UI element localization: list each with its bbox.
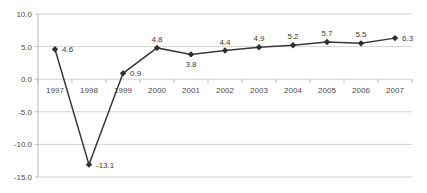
data-point-label: 4.9 (253, 34, 265, 43)
data-point-labels: 4.6-13.10.94.83.84.44.95.25.75.56.3 (62, 29, 414, 170)
x-axis-tick-label: 1998 (80, 86, 98, 95)
data-point-label: 3.8 (185, 60, 197, 69)
data-point-markers (52, 35, 398, 168)
x-axis-tick-label: 2002 (216, 86, 234, 95)
data-point-label: 4.4 (219, 38, 231, 47)
x-axis-tick-label: 1997 (46, 86, 64, 95)
data-point-marker (256, 44, 262, 50)
x-axis-tick-label: 2005 (318, 86, 336, 95)
y-axis-tick-label: -10.0 (14, 140, 33, 149)
y-axis-tick-label: -5.0 (18, 108, 32, 117)
x-axis-tick-label: 2007 (386, 86, 404, 95)
x-axis-labels: 1997199819992000200120022003200420052006… (46, 86, 404, 95)
data-point-label: 5.5 (355, 30, 367, 39)
x-axis-tick-label: 2000 (148, 86, 166, 95)
data-point-marker (188, 51, 194, 57)
data-point-marker (86, 161, 92, 167)
chart-canvas: 10.05.00.0-5.0-10.0-15.0 199719981999200… (0, 0, 427, 193)
data-point-label: 6.3 (402, 34, 414, 43)
data-point-marker (324, 39, 330, 45)
data-point-label: -13.1 (96, 161, 115, 170)
y-axis-tick-label: 0.0 (21, 75, 33, 84)
data-point-marker (392, 35, 398, 41)
data-line-series (55, 38, 395, 164)
data-point-label: 5.7 (321, 29, 333, 38)
data-point-marker (358, 40, 364, 46)
x-axis-tick-label: 2004 (284, 86, 302, 95)
data-point-marker (290, 42, 296, 48)
x-axis-tick-label: 2003 (250, 86, 268, 95)
data-point-label: 5.2 (287, 32, 299, 41)
data-point-label: 4.6 (62, 45, 74, 54)
y-axis-tick-label: 5.0 (21, 43, 33, 52)
line-chart: 10.05.00.0-5.0-10.0-15.0 199719981999200… (0, 0, 427, 193)
y-axis-tick-label: 10.0 (16, 10, 32, 19)
data-point-label: 4.8 (151, 35, 163, 44)
x-axis-tick-label: 2006 (352, 86, 370, 95)
data-point-label: 0.9 (130, 69, 142, 78)
data-point-marker (222, 47, 228, 53)
x-axis-tick-label: 2001 (182, 86, 200, 95)
y-axis-labels: 10.05.00.0-5.0-10.0-15.0 (14, 10, 33, 182)
y-axis-tick-label: -15.0 (14, 173, 33, 182)
x-axis-ticks (38, 79, 412, 83)
